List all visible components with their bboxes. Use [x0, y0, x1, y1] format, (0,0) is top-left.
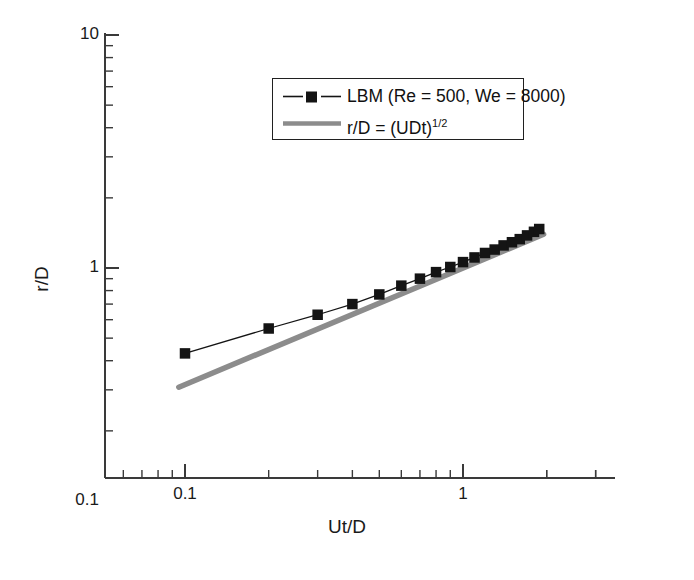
x-axis-ticks [123, 464, 595, 478]
data-point-marker [263, 323, 274, 334]
legend-entry-theory: r/D = (UDt)1/2 [273, 108, 525, 139]
legend-label-theory-exponent: 1/2 [432, 117, 447, 129]
legend-label-theory-main: r/D = (UDt) [347, 118, 432, 138]
y-tick-label-0.1: 0.1 [39, 490, 99, 510]
data-point-marker [469, 252, 480, 263]
data-point-marker [489, 244, 500, 255]
data-point-marker [480, 248, 491, 258]
legend-swatch-thick-line [281, 108, 343, 139]
figure-container: 10 1 0.1 0.1 1 Ut/D r/D LBM (Re = 500, W… [0, 0, 694, 580]
data-point-marker [180, 348, 191, 359]
data-point-marker [312, 310, 323, 321]
y-axis-ticks [105, 35, 119, 431]
x-tick-label-0.1: 0.1 [145, 484, 225, 504]
data-point-marker [396, 280, 407, 291]
y-tick-label-10: 10 [39, 24, 99, 44]
x-tick-label-1: 1 [423, 484, 503, 504]
y-axis-title: r/D [31, 219, 53, 339]
data-point-marker [534, 224, 545, 235]
legend-label-theory: r/D = (UDt)1/2 [347, 108, 447, 139]
chart-legend: LBM (Re = 500, We = 8000) r/D = (UDt)1/2 [272, 78, 524, 140]
x-axis-title: Ut/D [0, 516, 694, 538]
data-point-marker [374, 289, 385, 300]
data-point-marker [458, 257, 469, 268]
data-point-marker [415, 273, 426, 284]
data-point-marker [347, 299, 358, 310]
data-point-marker [431, 267, 442, 278]
data-point-marker [445, 262, 456, 273]
series-lbm-line [185, 229, 539, 353]
